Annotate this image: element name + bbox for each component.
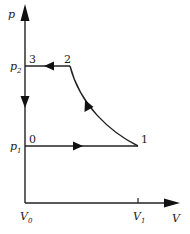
v0-label: V0: [20, 210, 33, 225]
point-1-label: 1: [141, 133, 148, 146]
pv-diagram: p V p2 p1 V0 V1 3 2 0 1: [0, 0, 190, 234]
v1-label: V1: [133, 210, 145, 225]
arrow-down-icon: [21, 96, 30, 108]
arrow-left-icon: [44, 62, 54, 71]
arrow-right-icon: [73, 142, 83, 151]
point-2-label: 2: [64, 53, 71, 66]
p-axis-label: p: [8, 8, 15, 21]
point-3-label: 3: [29, 53, 36, 66]
path-1-2: [70, 66, 138, 146]
p-axis-arrow-icon: [21, 4, 30, 21]
v-axis-arrow-icon: [164, 199, 180, 208]
p1-label: p1: [10, 140, 22, 155]
v-axis-label: V: [172, 212, 181, 225]
point-0-label: 0: [29, 133, 36, 146]
p2-label: p2: [10, 60, 22, 75]
